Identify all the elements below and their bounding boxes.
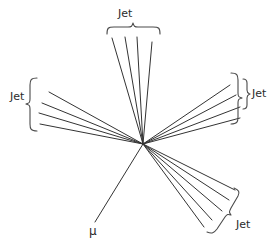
jet-bottom-right-label: Jet xyxy=(236,219,250,230)
brace-jet-top xyxy=(107,23,160,34)
track-line xyxy=(143,42,152,144)
jet-bottom-right-tracks xyxy=(143,144,235,227)
track-line xyxy=(143,144,204,227)
track-line xyxy=(143,95,236,144)
jet-left-tracks xyxy=(39,92,143,144)
track-line xyxy=(143,118,240,144)
track-line xyxy=(42,103,143,144)
brace-jet-right-outer xyxy=(231,73,242,124)
brace-jet-left xyxy=(26,78,37,131)
brace-jet-right-inner xyxy=(243,79,250,109)
track-line xyxy=(39,113,143,144)
jet-top-tracks xyxy=(112,37,152,144)
track-line xyxy=(49,92,143,144)
jet-right-tracks xyxy=(143,85,240,144)
event-display-canvas: Jet Jet Jet Jet μ xyxy=(0,0,279,252)
track-line xyxy=(40,124,143,144)
muon-track xyxy=(95,144,143,222)
track-line xyxy=(95,144,143,222)
jet-top-label: Jet xyxy=(118,8,132,19)
jet-right-label: Jet xyxy=(252,88,266,99)
track-line xyxy=(143,85,230,144)
event-display-svg xyxy=(0,0,279,252)
brace-jet-bottom-right xyxy=(207,188,239,233)
track-line xyxy=(143,107,240,144)
muon-label: μ xyxy=(89,225,97,237)
jet-left-label: Jet xyxy=(10,91,24,102)
